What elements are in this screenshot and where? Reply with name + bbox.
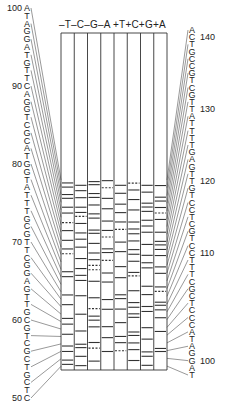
gel-lanes: [0, 0, 225, 407]
sequencing-gel-diagram: –T–C–G–A +T+C+G+A ATAGGATGTTCAGGTCGCATGG…: [0, 0, 225, 407]
